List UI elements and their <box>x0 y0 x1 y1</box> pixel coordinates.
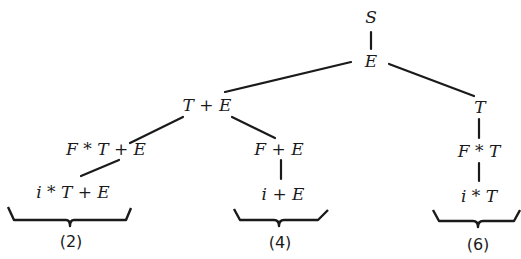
node-i-plus-e: i + E <box>262 186 305 203</box>
brace-2 <box>8 207 131 226</box>
edge-fte-ite <box>81 160 119 176</box>
node-f-plus-e: F + E <box>254 141 303 158</box>
node-i-times-t-plus-e: i * T + E <box>36 184 110 201</box>
brace-6 <box>433 210 520 227</box>
node-e: E <box>365 53 377 70</box>
node-f-times-t-plus-e: F * T + E <box>66 141 146 158</box>
node-t: T <box>474 99 485 116</box>
node-s: S <box>365 9 377 26</box>
node-t-plus-e: T + E <box>183 97 232 114</box>
brace-4 <box>234 209 328 226</box>
node-i-times-t: i * T <box>461 188 497 205</box>
derivation-tree-diagram: S E T + E T F * T + E F + E F * T i * T … <box>0 0 521 259</box>
node-f-times-t: F * T <box>458 143 500 160</box>
brace-label-6: (6) <box>467 237 490 253</box>
brace-label-2: (2) <box>60 234 83 250</box>
tree-edges <box>0 0 521 259</box>
edge-te-fe <box>232 117 275 138</box>
edge-e-te <box>225 62 351 92</box>
edge-e-t <box>389 64 474 96</box>
brace-label-4: (4) <box>269 235 292 251</box>
